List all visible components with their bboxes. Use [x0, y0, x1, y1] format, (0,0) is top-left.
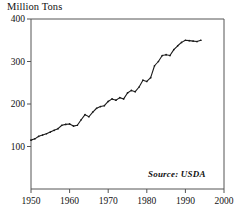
data-point	[169, 55, 171, 57]
data-point	[88, 116, 90, 118]
data-point	[42, 134, 44, 136]
data-point	[150, 77, 152, 79]
data-point	[69, 123, 71, 125]
data-point	[188, 40, 190, 42]
data-point	[65, 124, 67, 126]
series-markers	[30, 39, 202, 141]
x-tick-label: 1960	[60, 196, 79, 206]
x-tick-label: 1990	[176, 196, 195, 206]
data-point	[123, 98, 125, 100]
data-point	[111, 98, 113, 100]
data-point	[53, 130, 55, 132]
data-point	[107, 101, 109, 103]
x-tick-label: 1970	[99, 196, 118, 206]
data-point	[100, 106, 102, 108]
data-point	[200, 39, 202, 41]
y-tick-label: 400	[11, 14, 26, 24]
data-point	[127, 92, 129, 94]
data-point	[80, 119, 82, 121]
data-point	[34, 138, 36, 140]
data-point	[192, 40, 194, 42]
data-point	[38, 135, 40, 137]
data-point	[73, 125, 75, 127]
data-point	[154, 65, 156, 67]
x-axis-ticks: 195019601970198019902000	[22, 189, 234, 206]
axes	[31, 19, 224, 189]
data-point	[30, 139, 32, 141]
data-point	[158, 61, 160, 63]
data-point	[103, 105, 105, 107]
data-point	[76, 124, 78, 126]
data-point	[115, 99, 117, 101]
data-point	[49, 131, 51, 133]
data-point	[138, 86, 140, 88]
data-point	[119, 97, 121, 99]
series-line-production	[31, 40, 201, 140]
data-point	[46, 133, 48, 135]
data-point	[165, 54, 167, 56]
chart-svg: 100200300400 195019601970198019902000	[0, 0, 239, 218]
y-axis-ticks: 100200300400	[11, 14, 31, 152]
data-point	[177, 45, 179, 47]
x-tick-label: 2000	[215, 196, 234, 206]
plot-area: 100200300400 195019601970198019902000	[0, 0, 239, 218]
data-point	[181, 42, 183, 44]
data-point	[61, 124, 63, 126]
data-series-group	[30, 39, 202, 141]
data-point	[196, 41, 198, 43]
chart-figure: Million Tons 100200300400 19501960197019…	[0, 0, 239, 218]
data-point	[173, 49, 175, 51]
data-point	[134, 91, 136, 93]
data-point	[131, 90, 133, 92]
y-tick-label: 300	[11, 57, 26, 67]
source-annotation: Source: USDA	[148, 169, 206, 179]
data-point	[84, 114, 86, 116]
data-point	[185, 39, 187, 41]
data-point	[96, 107, 98, 109]
y-tick-label: 100	[11, 142, 26, 152]
x-tick-label: 1950	[22, 196, 41, 206]
data-point	[161, 55, 163, 57]
data-point	[57, 128, 59, 130]
data-point	[142, 79, 144, 81]
x-tick-label: 1980	[137, 196, 156, 206]
data-point	[92, 111, 94, 113]
y-tick-label: 200	[11, 99, 26, 109]
data-point	[146, 81, 148, 83]
